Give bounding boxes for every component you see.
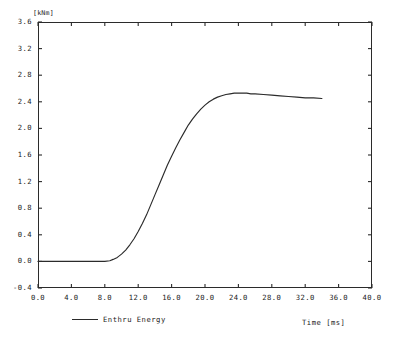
chart-legend: Enthru Energy	[72, 315, 166, 324]
x-tick-label: 32.0	[288, 294, 322, 302]
data-series-group	[38, 93, 322, 261]
chart-container: [kNm] 3.63.22.82.42.01.61.20.80.40.0-0.4…	[0, 0, 398, 338]
x-tick-label: 28.0	[255, 294, 289, 302]
plot-canvas	[0, 0, 398, 338]
y-tick-label: 2.4	[2, 98, 32, 106]
tick-marks-group	[38, 22, 372, 288]
y-tick-label: 0.0	[2, 257, 32, 265]
legend-line-swatch	[72, 319, 98, 320]
x-tick-label: 4.0	[54, 294, 88, 302]
y-tick-label: 1.6	[2, 151, 32, 159]
y-tick-label: 1.2	[2, 178, 32, 186]
x-tick-label: 36.0	[322, 294, 356, 302]
y-tick-label: 3.6	[2, 18, 32, 26]
x-tick-label: 12.0	[121, 294, 155, 302]
series-line-enthru-energy	[38, 93, 322, 261]
x-tick-label: 8.0	[88, 294, 122, 302]
x-axis-title: Time [ms]	[302, 318, 345, 327]
y-tick-label: 3.2	[2, 45, 32, 53]
x-tick-label: 40.0	[355, 294, 389, 302]
x-tick-label: 16.0	[155, 294, 189, 302]
legend-label-enthru-energy: Enthru Energy	[103, 315, 166, 324]
y-tick-label: -0.4	[2, 284, 32, 292]
y-tick-label: 2.0	[2, 124, 32, 132]
y-tick-label: 0.4	[2, 231, 32, 239]
y-tick-label: 2.8	[2, 71, 32, 79]
x-tick-label: 24.0	[221, 294, 255, 302]
x-tick-label: 0.0	[21, 294, 55, 302]
y-tick-label: 0.8	[2, 204, 32, 212]
x-tick-label: 20.0	[188, 294, 222, 302]
